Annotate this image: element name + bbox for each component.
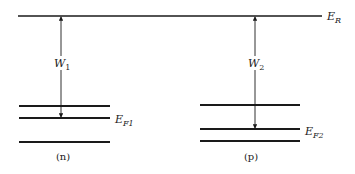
panel-caption: (p): [244, 151, 258, 162]
fermi-level-label: EF2: [304, 125, 324, 140]
panel-n-type: W1 EF1 (n): [19, 17, 134, 162]
reference-level-label: ER: [326, 10, 341, 25]
panel-caption: (n): [56, 151, 70, 162]
fermi-level-label: EF1: [114, 113, 134, 128]
panel-p-type: W2 EF2 (p): [200, 17, 324, 162]
energy-band-diagram: ER W1 EF1 (n) W2 EF2 (p): [0, 0, 355, 174]
